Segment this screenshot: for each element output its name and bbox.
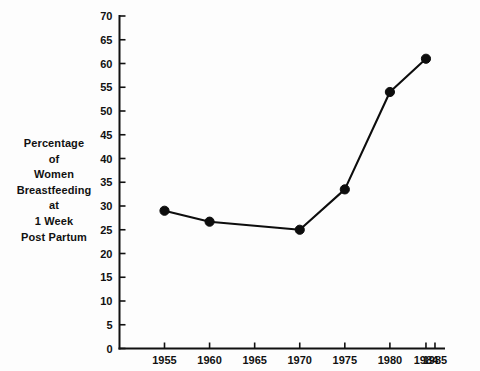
x-tick-label: 1970 xyxy=(287,354,311,366)
data-series-line xyxy=(165,59,426,230)
y-tick-label: 10 xyxy=(100,295,112,307)
data-point-marker xyxy=(295,225,304,234)
data-point-marker xyxy=(160,206,169,215)
line-chart-plot: 0510152025303540455055606570 19551960196… xyxy=(0,0,480,371)
x-tick-label: 1980 xyxy=(378,354,402,366)
x-tick-label: 1975 xyxy=(333,354,357,366)
data-point-marker xyxy=(205,217,214,226)
y-tick-label: 45 xyxy=(100,129,112,141)
y-tick-label: 35 xyxy=(100,176,112,188)
y-tick-label: 70 xyxy=(100,10,112,22)
x-axis-ticks: 19551960196519701975198019841985 xyxy=(152,343,447,366)
data-point-marker xyxy=(340,185,349,194)
y-tick-label: 20 xyxy=(100,248,112,260)
y-tick-label: 0 xyxy=(106,343,112,355)
x-tick-label: 1960 xyxy=(197,354,221,366)
y-tick-label: 30 xyxy=(100,200,112,212)
y-tick-label: 15 xyxy=(100,271,112,283)
y-tick-label: 50 xyxy=(100,105,112,117)
y-tick-label: 40 xyxy=(100,153,112,165)
x-tick-label: 1985 xyxy=(423,354,447,366)
y-tick-label: 65 xyxy=(100,34,112,46)
y-axis-ticks: 0510152025303540455055606570 xyxy=(100,10,125,355)
chart-container: Percentage of Women Breastfeeding at 1 W… xyxy=(0,0,480,371)
x-tick-label: 1955 xyxy=(152,354,176,366)
data-point-marker xyxy=(421,54,430,63)
data-point-marker xyxy=(385,87,394,96)
x-tick-label: 1965 xyxy=(242,354,266,366)
data-point-markers xyxy=(160,54,431,234)
y-tick-label: 5 xyxy=(106,319,112,331)
y-tick-label: 60 xyxy=(100,58,112,70)
y-tick-label: 55 xyxy=(100,81,112,93)
y-tick-label: 25 xyxy=(100,224,112,236)
